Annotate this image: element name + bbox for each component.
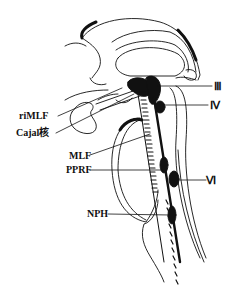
- brainstem-diagram: riMLF Cajal核 MLF PPRF NPH Ⅲ Ⅳ Ⅵ: [0, 0, 238, 290]
- label-riMLF: riMLF: [19, 111, 48, 121]
- label-cranial-nerve-III: Ⅲ: [214, 81, 222, 92]
- label-NPH: NPH: [87, 209, 108, 219]
- label-cranial-nerve-IV: Ⅳ: [210, 100, 220, 111]
- label-cranial-nerve-VI: Ⅵ: [206, 175, 216, 186]
- label-MLF: MLF: [69, 151, 91, 161]
- brainstem-sagittal-drawing: [0, 0, 238, 290]
- label-cajal-nucleus: Cajal核: [16, 128, 49, 138]
- label-PPRF: PPRF: [66, 165, 92, 175]
